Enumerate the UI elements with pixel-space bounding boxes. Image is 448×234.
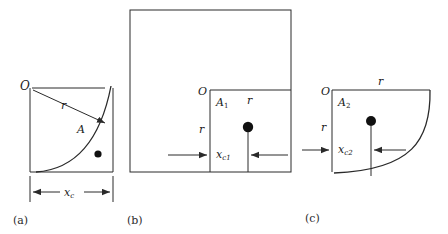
figure-canvas: O r A xc (a) O A1 r r xc1 (b) [0,0,448,234]
panel-a-radius-arrow [33,90,105,123]
panel-b-origin-label: O [198,85,207,98]
centroid-figure: O r A xc (a) O A1 r r xc1 (b) [0,0,448,234]
panel-c-centroid-dot [366,116,376,126]
panel-b-area-label: A1 [215,96,228,110]
panel-c-origin-label: O [321,85,330,98]
panel-b-radius-label-top: r [247,94,253,107]
panel-a: O r A xc (a) [13,79,113,227]
panel-b-radius-label-left: r [199,123,205,136]
panel-c-area-label: A2 [337,96,350,110]
panel-b-centroid-dot [243,122,253,132]
panel-a-radius-label: r [61,99,67,112]
panel-b-caption: (b) [127,214,143,227]
panel-a-centroid-dot [94,150,101,157]
panel-c-radius-label-top: r [378,75,384,88]
panel-a-dimension-label: xc [64,186,74,200]
panel-a-origin-label: O [20,79,30,93]
panel-c: O A2 r r xc2 (c) [302,75,430,225]
panel-a-arc [36,86,111,172]
panel-c-dimension-label: xc2 [338,143,353,157]
panel-a-caption: (a) [13,214,28,227]
panel-c-caption: (c) [305,212,320,225]
panel-c-radius-label-left: r [321,121,327,134]
panel-b: O A1 r r xc1 (b) [127,10,291,227]
panel-a-area-label: A [76,123,85,136]
panel-b-dimension-label: xc1 [216,148,231,162]
